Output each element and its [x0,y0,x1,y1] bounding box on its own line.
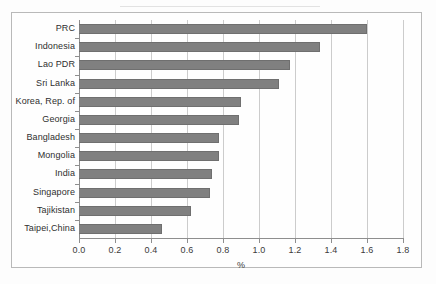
gridline [331,20,332,238]
y-tick-label: Sri Lanka [3,78,75,88]
gridline [223,20,224,238]
x-tick-label: 0.6 [167,245,207,255]
x-tick-label: 0.8 [203,245,243,255]
x-tick [151,239,152,243]
gridline [403,20,404,238]
bar [79,42,320,52]
bar [79,206,191,216]
x-tick-label: 0.0 [59,245,99,255]
x-tick-label: 0.4 [131,245,171,255]
x-axis-title: % [79,260,403,270]
gridline [367,20,368,238]
y-tick-label: Bangladesh [3,132,75,142]
x-tick [223,239,224,243]
gridline [259,20,260,238]
y-tick [75,202,79,203]
y-tick [75,165,79,166]
x-tick [259,239,260,243]
y-tick-label: Indonesia [3,41,75,51]
scan-artifact-line [120,6,320,7]
y-tick-label: Singapore [3,187,75,197]
y-tick [75,56,79,57]
y-tick [75,38,79,39]
y-tick-label: Korea, Rep. of [3,96,75,106]
bar [79,97,241,107]
x-tick-label: 1.0 [239,245,279,255]
bar [79,151,219,161]
bar [79,188,210,198]
y-tick [75,220,79,221]
bar [79,79,279,89]
y-tick [75,93,79,94]
bar [79,169,212,179]
x-tick [331,239,332,243]
x-axis-line [79,238,404,239]
x-tick-label: 1.8 [383,245,423,255]
x-tick-label: 1.2 [275,245,315,255]
x-tick [295,239,296,243]
y-tick-label: Mongolia [3,150,75,160]
x-tick [403,239,404,243]
x-tick [367,239,368,243]
x-tick-label: 1.4 [311,245,351,255]
bar [79,115,239,125]
chart-figure: 0.00.20.40.60.81.01.21.41.61.8 PRCIndone… [0,0,436,284]
bar [79,224,162,234]
y-tick-label: Lao PDR [3,59,75,69]
y-tick-label: India [3,168,75,178]
y-tick-label: PRC [3,23,75,33]
y-tick-label: Georgia [3,114,75,124]
bar [79,133,219,143]
x-tick-label: 0.2 [95,245,135,255]
y-tick [75,147,79,148]
y-tick [75,75,79,76]
x-tick [79,239,80,243]
y-tick [75,129,79,130]
bar [79,24,367,34]
x-tick [115,239,116,243]
x-tick-label: 1.6 [347,245,387,255]
x-tick [187,239,188,243]
y-tick [75,111,79,112]
y-tick-label: Taipei,China [3,223,75,233]
y-tick-label: Tajikistan [3,205,75,215]
bar [79,60,290,70]
gridline [295,20,296,238]
y-tick [75,184,79,185]
